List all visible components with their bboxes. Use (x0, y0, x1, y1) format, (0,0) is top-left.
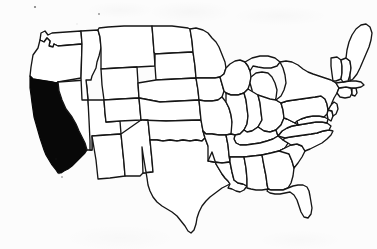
state-florida (267, 185, 312, 218)
state-vermont (331, 57, 342, 81)
us-map-figure: Outline map of the contiguous United Sta… (0, 0, 377, 249)
scan-speck (55, 158, 57, 160)
state-montana (98, 26, 155, 69)
state-arizona (92, 134, 125, 179)
us-map-svg: Outline map of the contiguous United Sta… (0, 0, 377, 249)
state-south-dakota (155, 52, 196, 80)
state-massachusetts (336, 81, 364, 88)
state-kansas (139, 98, 201, 121)
state-iowa (196, 77, 224, 101)
state-oklahoma (141, 120, 205, 141)
state-wyoming (101, 67, 139, 100)
state-idaho (81, 30, 101, 100)
state-north-dakota (152, 26, 193, 54)
scan-speck (58, 172, 60, 174)
scan-speck (61, 176, 63, 178)
state-oregon (30, 38, 82, 83)
scan-speck (98, 13, 100, 15)
state-minnesota (190, 28, 226, 78)
state-nebraska (138, 78, 199, 102)
state-connecticut (337, 87, 352, 98)
state-maine (346, 24, 372, 81)
state-rhode-island (352, 88, 357, 96)
scan-speck (34, 6, 36, 8)
state-colorado (104, 98, 141, 122)
